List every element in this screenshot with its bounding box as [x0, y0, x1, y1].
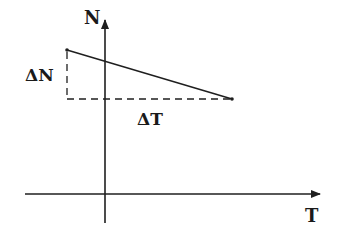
- n-axis-label: N: [84, 7, 100, 28]
- line-end-point: [230, 97, 234, 101]
- sloped-line: [67, 50, 232, 99]
- delta-n-label: ΔN: [25, 65, 54, 85]
- delta-t-label: ΔT: [137, 109, 163, 129]
- n-vs-t-diagram: N T ΔN ΔT: [0, 0, 341, 238]
- t-axis-label: T: [305, 205, 319, 226]
- line-start-point: [65, 48, 69, 52]
